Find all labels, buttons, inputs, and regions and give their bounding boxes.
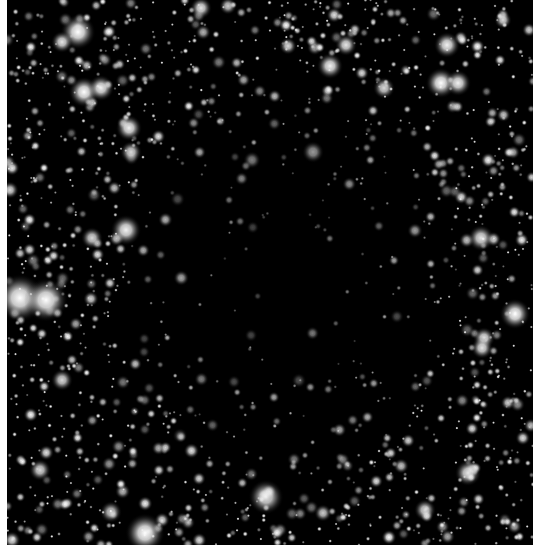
image-frame: [0, 0, 543, 545]
star-field-photo: [7, 0, 533, 545]
star-field-canvas: [7, 0, 533, 545]
